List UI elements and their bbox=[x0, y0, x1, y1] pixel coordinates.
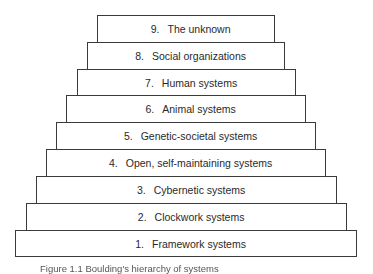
level-2: 2. Clockwork systems bbox=[26, 203, 347, 230]
level-number: 1. bbox=[126, 238, 144, 250]
level-label: Human systems bbox=[162, 77, 237, 89]
level-label: The unknown bbox=[167, 23, 230, 35]
level-3: 3. Cybernetic systems bbox=[36, 176, 337, 203]
level-label: Clockwork systems bbox=[155, 211, 245, 223]
level-number: 7. bbox=[136, 77, 154, 89]
level-label: Framework systems bbox=[152, 238, 246, 250]
level-number: 6. bbox=[136, 103, 154, 115]
figure-caption: Figure 1.1 Boulding's hierarchy of syste… bbox=[40, 263, 219, 274]
level-7: 7. Human systems bbox=[77, 69, 296, 95]
level-label: Social organizations bbox=[152, 50, 246, 62]
level-1: 1. Framework systems bbox=[15, 230, 357, 257]
level-label: Cybernetic systems bbox=[154, 184, 246, 196]
level-label: Genetic-societal systems bbox=[141, 130, 258, 142]
level-number: 2. bbox=[129, 211, 147, 223]
level-number: 3. bbox=[128, 184, 146, 196]
level-number: 4. bbox=[100, 157, 118, 169]
level-label: Animal systems bbox=[162, 103, 236, 115]
level-number: 5. bbox=[115, 130, 133, 142]
level-4: 4. Open, self-maintaining systems bbox=[46, 149, 326, 176]
level-label: Open, self-maintaining systems bbox=[126, 157, 272, 169]
level-8: 8. Social organizations bbox=[87, 42, 285, 69]
level-5: 5. Genetic-societal systems bbox=[56, 122, 316, 149]
level-number: 8. bbox=[126, 50, 144, 62]
level-6: 6. Animal systems bbox=[66, 95, 306, 122]
level-9: 9. The unknown bbox=[97, 15, 275, 42]
level-number: 9. bbox=[141, 23, 159, 35]
